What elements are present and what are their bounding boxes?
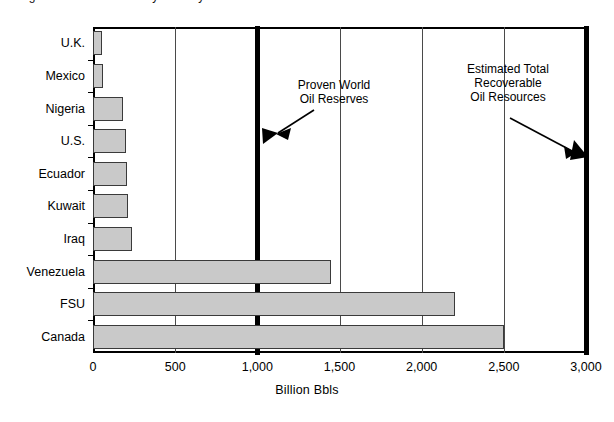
y-axis-tick bbox=[88, 255, 93, 256]
y-axis-label-u-s: U.S. bbox=[0, 134, 85, 148]
x-axis-tick-label-1500: 1,500 bbox=[324, 360, 355, 374]
figure-title-remnant: Figure 1. Oil reserves by country bbox=[18, 0, 205, 3]
y-axis-tick bbox=[88, 320, 93, 321]
bar-kuwait bbox=[93, 194, 128, 218]
bar-mexico bbox=[93, 64, 103, 88]
y-axis-label-iraq: Iraq bbox=[0, 232, 85, 246]
x-axis-tick-label-2500: 2,500 bbox=[488, 360, 519, 374]
y-axis-tick bbox=[88, 92, 93, 93]
annotation-proven-world-oil-reserves: Proven World Oil Reserves bbox=[272, 78, 396, 106]
x-axis-tick-label-0: 0 bbox=[90, 360, 97, 374]
y-axis-tick bbox=[88, 125, 93, 126]
x-axis-tick-label-3000: 3,000 bbox=[570, 360, 601, 374]
y-axis-label-nigeria: Nigeria bbox=[0, 102, 85, 116]
bar-iraq bbox=[93, 227, 132, 251]
annotation-estimated-total-recoverable-oil-resources: Estimated Total Recoverable Oil Resource… bbox=[440, 62, 576, 104]
oil-reserves-bar-chart-figure: Figure 1. Oil reserves by country U.K.Me… bbox=[0, 0, 614, 422]
bar-u-s bbox=[93, 129, 126, 153]
x-axis-tick-label-2000: 2,000 bbox=[406, 360, 437, 374]
bar-nigeria bbox=[93, 97, 123, 121]
bar-fsu bbox=[93, 292, 455, 316]
y-axis-label-fsu: FSU bbox=[0, 297, 85, 311]
x-axis-tick-label-500: 500 bbox=[165, 360, 186, 374]
bar-canada bbox=[93, 325, 504, 349]
y-axis-label-kuwait: Kuwait bbox=[0, 199, 85, 213]
bar-u-k bbox=[93, 31, 102, 55]
y-axis-label-ecuador: Ecuador bbox=[0, 167, 85, 181]
bar-ecuador bbox=[93, 162, 127, 186]
y-axis-tick bbox=[88, 60, 93, 61]
bar-venezuela bbox=[93, 260, 331, 284]
x-axis-title: Billion Bbls bbox=[0, 383, 614, 397]
y-axis-label-canada: Canada bbox=[0, 330, 85, 344]
axis-marker-3000 bbox=[584, 26, 589, 355]
y-axis-label-venezuela: Venezuela bbox=[0, 265, 85, 279]
x-axis-tick-label-1000: 1,000 bbox=[242, 360, 273, 374]
y-axis-tick bbox=[88, 190, 93, 191]
y-axis-tick bbox=[88, 288, 93, 289]
y-axis-tick bbox=[88, 157, 93, 158]
y-axis-label-mexico: Mexico bbox=[0, 69, 85, 83]
y-axis-label-u-k: U.K. bbox=[0, 36, 85, 50]
y-axis-tick bbox=[88, 223, 93, 224]
